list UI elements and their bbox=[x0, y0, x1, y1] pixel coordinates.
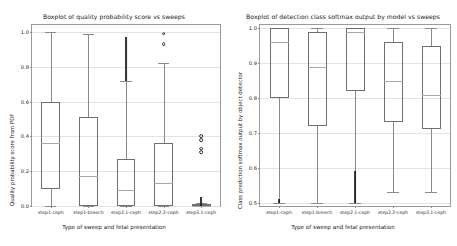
outlier-cluster bbox=[200, 197, 202, 206]
whisker-cap-upper bbox=[158, 63, 169, 64]
whisker-cap-lower bbox=[349, 203, 360, 204]
right-x-axis-label: Type of sweep and fetal presentation bbox=[229, 224, 457, 230]
y-tick-label: 0.0 bbox=[21, 203, 29, 209]
whisker-cap-lower bbox=[120, 206, 131, 207]
outlier-cluster bbox=[354, 171, 356, 202]
median-line bbox=[422, 95, 441, 96]
y-tick-mark bbox=[258, 168, 260, 169]
x-tick-mark bbox=[355, 206, 356, 208]
median-line bbox=[270, 42, 289, 43]
outlier-point bbox=[162, 32, 166, 36]
y-tick-label: 1.0 bbox=[21, 29, 29, 35]
right-y-axis-label: Class prediction softmax output by objec… bbox=[237, 72, 243, 209]
x-tick-label: step1-ceph bbox=[38, 210, 64, 215]
whisker-lower bbox=[51, 189, 52, 206]
whisker-cap-upper bbox=[425, 28, 436, 29]
y-tick-mark bbox=[258, 203, 260, 204]
median-line bbox=[346, 32, 365, 33]
x-tick-mark bbox=[431, 206, 432, 208]
left-y-axis-label: Quality probability score from PDF bbox=[9, 114, 15, 206]
y-tick-label: 0.7 bbox=[249, 130, 257, 136]
whisker-lower bbox=[279, 98, 280, 202]
y-tick-mark bbox=[30, 171, 32, 172]
y-tick-label: 1.0 bbox=[249, 25, 257, 31]
y-tick-mark bbox=[258, 63, 260, 64]
whisker-lower bbox=[393, 122, 394, 192]
left-panel: Boxplot of quality probability score vs … bbox=[0, 0, 228, 246]
whisker-cap-upper bbox=[120, 81, 131, 82]
x-tick-label: step1-breech bbox=[73, 210, 103, 215]
median-line bbox=[384, 81, 403, 82]
y-tick-label: 0.8 bbox=[21, 64, 29, 70]
median-line bbox=[117, 190, 136, 191]
outlier-cluster bbox=[125, 37, 127, 81]
left-x-axis-label: Type of sweep and fetal presentation bbox=[0, 224, 228, 230]
y-tick-mark bbox=[258, 98, 260, 99]
whisker-cap-upper bbox=[311, 28, 322, 29]
y-tick-label: 0.4 bbox=[21, 133, 29, 139]
y-tick-label: 0.8 bbox=[249, 95, 257, 101]
y-tick-label: 0.2 bbox=[21, 168, 29, 174]
box bbox=[422, 46, 441, 130]
whisker-lower bbox=[317, 126, 318, 203]
x-tick-label: step2.2-ceph bbox=[149, 210, 179, 215]
box bbox=[270, 28, 289, 98]
outlier-cluster bbox=[278, 199, 280, 202]
y-tick-mark bbox=[30, 102, 32, 103]
median-line bbox=[79, 176, 98, 177]
whisker-cap-upper bbox=[45, 32, 56, 33]
x-tick-label: step2.2-ceph bbox=[378, 210, 408, 215]
y-tick-label: 0.6 bbox=[21, 99, 29, 105]
x-tick-mark bbox=[317, 206, 318, 208]
y-tick-label: 0.9 bbox=[249, 60, 257, 66]
whisker-upper bbox=[431, 28, 432, 45]
right-panel: Boxplot of detection class softmax outpu… bbox=[229, 0, 457, 246]
y-tick-mark bbox=[30, 206, 32, 207]
box bbox=[154, 143, 173, 206]
whisker-cap-lower bbox=[83, 206, 94, 207]
x-tick-mark bbox=[393, 206, 394, 208]
x-tick-label: step3.1-ceph bbox=[186, 210, 216, 215]
right-chart-title: Boxplot of detection class softmax outpu… bbox=[229, 13, 457, 20]
median-line bbox=[192, 206, 211, 207]
whisker-cap-upper bbox=[387, 28, 398, 29]
median-line bbox=[154, 183, 173, 184]
left-chart-title: Boxplot of quality probability score vs … bbox=[0, 13, 228, 20]
whisker-cap-upper bbox=[83, 34, 94, 35]
y-tick-label: 0.5 bbox=[249, 200, 257, 206]
box bbox=[384, 42, 403, 122]
right-plot-area: 0.50.60.70.80.91.0step1-cephstep1-breech… bbox=[259, 24, 451, 207]
left-plot-area: 0.00.20.40.60.81.0step1-cephstep1-breech… bbox=[31, 24, 221, 207]
box bbox=[308, 32, 327, 126]
whisker-upper bbox=[51, 32, 52, 102]
box bbox=[117, 159, 136, 206]
y-tick-mark bbox=[30, 32, 32, 33]
x-tick-label: step2.1-ceph bbox=[111, 210, 141, 215]
whisker-cap-lower bbox=[45, 206, 56, 207]
whisker-cap-lower bbox=[425, 192, 436, 193]
y-tick-mark bbox=[258, 133, 260, 134]
boxplot-figure: Boxplot of quality probability score vs … bbox=[0, 0, 457, 246]
x-tick-label: step1-breech bbox=[302, 210, 332, 215]
box bbox=[79, 117, 98, 206]
whisker-cap-lower bbox=[273, 203, 284, 204]
y-tick-label: 0.6 bbox=[249, 165, 257, 171]
y-gridline bbox=[32, 32, 220, 33]
y-tick-mark bbox=[258, 28, 260, 29]
outlier-point bbox=[199, 150, 203, 154]
whisker-upper bbox=[88, 34, 89, 118]
whisker-upper bbox=[393, 28, 394, 42]
y-tick-mark bbox=[30, 67, 32, 68]
whisker-cap-lower bbox=[311, 203, 322, 204]
y-tick-mark bbox=[30, 136, 32, 137]
median-line bbox=[41, 143, 60, 144]
x-tick-label: step3.1-ceph bbox=[416, 210, 446, 215]
box bbox=[346, 28, 365, 91]
whisker-upper bbox=[164, 63, 165, 143]
x-tick-label: step1-ceph bbox=[266, 210, 292, 215]
x-tick-mark bbox=[279, 206, 280, 208]
x-tick-label: step2.1-ceph bbox=[340, 210, 370, 215]
outlier-point bbox=[199, 138, 203, 142]
box bbox=[41, 102, 60, 189]
whisker-upper bbox=[126, 81, 127, 159]
